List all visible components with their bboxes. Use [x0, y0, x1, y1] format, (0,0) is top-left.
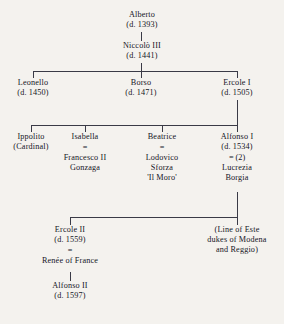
node-este-line-note: (Line of Este dukes of Modena and Reggio…: [197, 225, 277, 255]
alfonso1-spouse-line-2: Borgia: [207, 173, 267, 183]
isabella-spouse-line-1: Francesco II: [52, 153, 118, 163]
alberto-death: (d. 1393): [102, 20, 182, 30]
connector-drop-beatrice: [162, 125, 163, 132]
leonello-death: (d. 1450): [2, 88, 64, 98]
sibling-bar-generation-5: [70, 217, 238, 218]
connector-drop-borso: [141, 71, 142, 78]
este-line-text-1: (Line of Este: [197, 225, 277, 235]
connector-drop-ippolito: [31, 125, 32, 132]
connector-drop-ercole1: [237, 71, 238, 78]
beatrice-spouse-line-3: 'Il Moro': [132, 173, 192, 183]
leonello-name: Leonello: [2, 78, 64, 88]
isabella-marriage-symbol: =: [52, 142, 118, 153]
node-alberto: Alberto (d. 1393): [102, 10, 182, 30]
alfonso1-spouse-line-1: Lucrezia: [207, 163, 267, 173]
node-leonello: Leonello (d. 1450): [2, 78, 64, 98]
node-niccolo-iii: Niccolò III (d. 1441): [102, 41, 182, 61]
beatrice-spouse-line-1: Lodovico: [132, 153, 192, 163]
niccolo-name: Niccolò III: [102, 41, 182, 51]
node-ercole-ii: Ercole II (d. 1559) = Renée of France: [30, 225, 110, 266]
node-beatrice: Beatrice = Lodovico Sforza 'Il Moro': [132, 132, 192, 183]
node-alfonso-i: Alfonso I (d. 1534) = (2) Lucrezia Borgi…: [207, 132, 267, 183]
node-ercole-i: Ercole I (d. 1505): [206, 78, 268, 98]
connector-drop-leonello: [33, 71, 34, 78]
connector-drop-isabella: [85, 125, 86, 132]
ercole2-spouse: Renée of France: [30, 256, 110, 266]
alfonso2-name: Alfonso II: [40, 281, 100, 291]
isabella-name: Isabella: [52, 132, 118, 142]
connector-drop-este-line: [237, 217, 238, 225]
borso-name: Borso: [110, 78, 172, 88]
ercole1-name: Ercole I: [206, 78, 268, 88]
connector-ercole1-stem: [237, 100, 238, 125]
alberto-name: Alberto: [102, 10, 182, 20]
node-alfonso-ii: Alfonso II (d. 1597): [40, 281, 100, 301]
este-line-text-3: and Reggio): [197, 245, 277, 255]
connector-alberto-to-niccolo: [141, 32, 142, 41]
alfonso2-death: (d. 1597): [40, 291, 100, 301]
family-tree-diagram: Alberto (d. 1393) Niccolò III (d. 1441) …: [0, 0, 284, 324]
ercole2-name: Ercole II: [30, 225, 110, 235]
beatrice-spouse-line-2: Sforza: [132, 163, 192, 173]
ercole1-death: (d. 1505): [206, 88, 268, 98]
niccolo-death: (d. 1441): [102, 51, 182, 61]
connector-niccolo-stem: [141, 63, 142, 71]
beatrice-name: Beatrice: [132, 132, 192, 142]
connector-alfonso1-stem: [237, 192, 238, 217]
borso-death: (d. 1471): [110, 88, 172, 98]
connector-drop-alfonso1: [237, 125, 238, 132]
isabella-spouse-line-2: Gonzaga: [52, 163, 118, 173]
este-line-text-2: dukes of Modena: [197, 235, 277, 245]
beatrice-marriage-symbol: =: [132, 142, 192, 153]
sibling-bar-generation-4: [31, 125, 238, 126]
alfonso1-name: Alfonso I: [207, 132, 267, 142]
ercole2-marriage-symbol: =: [30, 245, 110, 256]
sibling-bar-generation-3: [33, 71, 238, 72]
connector-drop-ercole2: [70, 217, 71, 225]
node-isabella: Isabella = Francesco II Gonzaga: [52, 132, 118, 173]
alfonso1-death: (d. 1534): [207, 142, 267, 152]
ercole2-death: (d. 1559): [30, 235, 110, 245]
connector-ercole2-to-alfonso2: [70, 272, 71, 281]
alfonso1-marriage-symbol: = (2): [207, 152, 267, 163]
node-borso: Borso (d. 1471): [110, 78, 172, 98]
